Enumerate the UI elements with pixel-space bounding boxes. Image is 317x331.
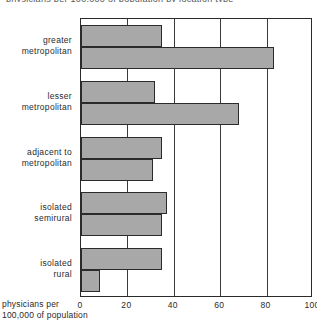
- x-axis-tick-label: 100: [304, 300, 317, 310]
- category-label-line: greater: [0, 35, 72, 46]
- x-axis-caption-line1: physicians per: [2, 299, 112, 310]
- plot-area: [80, 18, 312, 297]
- category-label: isolatedrural: [0, 258, 72, 280]
- category-label: adjacent tometropolitan: [0, 147, 72, 169]
- bar: [81, 137, 162, 159]
- bar: [81, 248, 162, 270]
- category-label-line: semirural: [0, 213, 72, 224]
- category-label: greatermetropolitan: [0, 35, 72, 57]
- chart-title-cropped: physicians per 100,000 of population by …: [6, 0, 296, 2]
- x-axis-tick-label: 20: [121, 300, 131, 310]
- bar: [81, 47, 274, 69]
- bar-chart: physicians per 100,000 of population by …: [0, 0, 317, 331]
- category-label: isolatedsemirural: [0, 202, 72, 224]
- category-label-line: lesser: [0, 91, 72, 102]
- bar: [81, 270, 100, 292]
- x-axis-tick-label: 40: [168, 300, 178, 310]
- x-axis-tick-label: 60: [214, 300, 224, 310]
- bar: [81, 159, 153, 181]
- bar: [81, 192, 167, 214]
- category-label-line: metropolitan: [0, 46, 72, 57]
- bar: [81, 214, 162, 236]
- category-label-line: metropolitan: [0, 158, 72, 169]
- category-label-line: metropolitan: [0, 102, 72, 113]
- category-label-line: rural: [0, 269, 72, 280]
- category-label-line: isolated: [0, 202, 72, 213]
- x-axis-tick-label: 80: [261, 300, 271, 310]
- category-label-line: adjacent to: [0, 147, 72, 158]
- bar: [81, 81, 155, 103]
- category-label: lessermetropolitan: [0, 91, 72, 113]
- x-axis-caption-line2: 100,000 of population: [2, 310, 112, 321]
- x-axis-caption: physicians per 100,000 of population: [2, 299, 112, 321]
- bar: [81, 25, 162, 47]
- category-label-line: isolated: [0, 258, 72, 269]
- bar: [81, 103, 239, 125]
